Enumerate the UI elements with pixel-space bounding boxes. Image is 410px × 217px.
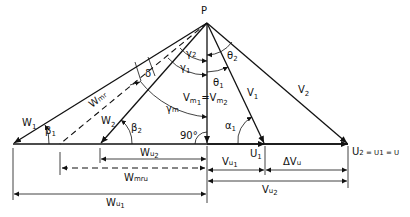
- wu1-label: Wu1: [106, 197, 125, 210]
- u1-label: U1: [250, 148, 262, 161]
- theta1-label: θ1: [213, 77, 224, 90]
- alpha1-label: α1: [225, 120, 236, 133]
- beta2-label: β2: [131, 122, 142, 135]
- vm-label: Vm1=Vm2: [183, 92, 228, 107]
- wmru-label: Wmru: [124, 172, 148, 183]
- gamma1-label: γ1: [180, 62, 190, 75]
- theta2-label: θ2: [227, 50, 238, 63]
- beta1-label: β1: [45, 125, 56, 138]
- u-equality-label: U2 = U1 = U: [352, 146, 399, 157]
- apex-label-p: P: [201, 5, 207, 16]
- w2-vector: [101, 23, 207, 143]
- w2-label: W2: [101, 115, 115, 129]
- delta-vu-label: ΔVu: [283, 156, 301, 167]
- gamma2-label: γ2: [186, 48, 196, 59]
- right-angle-label: 90°: [180, 130, 198, 141]
- w1-label: W1: [22, 117, 36, 131]
- v1-label: V1: [247, 87, 258, 101]
- gamma-m-label: γm: [166, 103, 179, 114]
- vu2-label: Vu2: [262, 184, 278, 197]
- v2-label: V2: [298, 84, 309, 98]
- theta1-arc: [207, 67, 228, 72]
- wu2-label: Wu2: [140, 147, 159, 160]
- alpha1-arc: [238, 117, 252, 144]
- velocity-triangle-diagram: P W1 W2 Wmr V1 V2 Vm1=Vm2 β1 β2 δ γ2 γ1 …: [0, 0, 410, 217]
- delta-label: δ: [145, 68, 151, 79]
- vu1-label: Vu1: [222, 156, 238, 169]
